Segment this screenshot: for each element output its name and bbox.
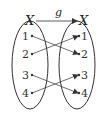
codomain-set-ellipse xyxy=(59,21,95,109)
domain-element-2: 2 xyxy=(22,48,29,61)
codomain-set-label: X xyxy=(78,13,89,28)
function-mapping-diagram: X X g 1 2 3 4 1 2 3 4 xyxy=(0,0,107,117)
element-dots xyxy=(31,35,80,94)
domain-element-3: 3 xyxy=(22,69,29,82)
domain-element-4: 4 xyxy=(22,87,29,100)
domain-element-1: 1 xyxy=(22,30,29,43)
codomain-element-4: 4 xyxy=(81,87,88,100)
codomain-element-3: 3 xyxy=(81,69,88,82)
codomain-element-2: 2 xyxy=(81,48,88,61)
domain-set-ellipse xyxy=(12,21,48,109)
domain-set-label: X xyxy=(24,13,35,28)
function-label: g xyxy=(55,6,62,19)
codomain-element-1: 1 xyxy=(81,30,88,43)
